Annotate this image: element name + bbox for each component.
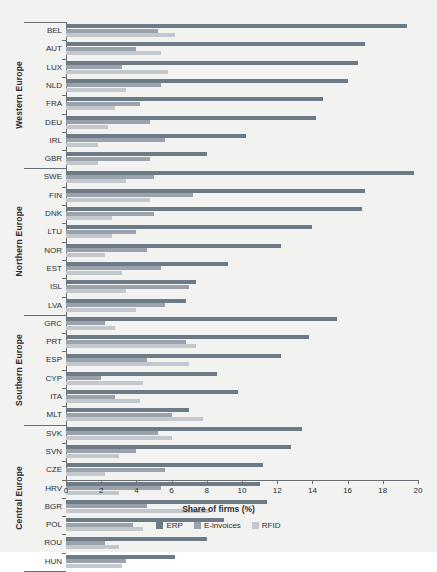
chart-row: HUN xyxy=(0,553,437,571)
category-label-swe: SWE xyxy=(26,168,62,186)
category-label-est: EST xyxy=(26,260,62,278)
chart-row: ESP xyxy=(0,351,437,369)
bar-prt-erp xyxy=(66,335,309,339)
bar-svn-rfid xyxy=(66,454,119,458)
x-axis-tick-label: 6 xyxy=(157,486,187,495)
bar-dnk-erp xyxy=(66,207,362,211)
bar-swe-rfid xyxy=(66,179,126,183)
bar-nld-rfid xyxy=(66,88,126,92)
legend-item-rfid[interactable]: RFID xyxy=(252,521,281,530)
bar-esp-e-invoices xyxy=(66,358,147,362)
bar-lux-erp xyxy=(66,61,358,65)
bar-gbr-e-invoices xyxy=(66,157,150,161)
chart-row: IRL xyxy=(0,132,437,150)
legend-swatch-icon xyxy=(156,522,163,529)
bar-est-erp xyxy=(66,262,228,266)
category-label-ltu: LTU xyxy=(26,223,62,241)
bar-group xyxy=(66,297,437,315)
category-label-dnk: DNK xyxy=(26,205,62,223)
bar-fin-erp xyxy=(66,189,365,193)
x-axis-tick xyxy=(348,480,349,484)
category-label-deu: DEU xyxy=(26,114,62,132)
bar-group xyxy=(66,132,437,150)
bar-lux-rfid xyxy=(66,70,168,74)
bar-svk-rfid xyxy=(66,436,172,440)
category-label-fin: FIN xyxy=(26,187,62,205)
bar-isl-rfid xyxy=(66,289,126,293)
bar-group xyxy=(66,242,437,260)
chart-row: ISL xyxy=(0,278,437,296)
bar-group xyxy=(66,260,437,278)
bar-group xyxy=(66,553,437,571)
bar-group xyxy=(66,187,437,205)
category-label-cze: CZE xyxy=(26,461,62,479)
bar-cze-erp xyxy=(66,463,263,467)
chart-row: EST xyxy=(0,260,437,278)
bar-group xyxy=(66,534,437,552)
bar-group xyxy=(66,315,437,333)
bar-irl-e-invoices xyxy=(66,138,165,142)
bar-nor-e-invoices xyxy=(66,248,147,252)
category-label-bel: BEL xyxy=(26,22,62,40)
bar-grc-rfid xyxy=(66,326,115,330)
bar-svn-e-invoices xyxy=(66,449,136,453)
x-axis-tick-label: 12 xyxy=(262,486,292,495)
bar-rou-e-invoices xyxy=(66,541,105,545)
chart-row: PRT xyxy=(0,333,437,351)
bar-fra-e-invoices xyxy=(66,102,140,106)
bar-group xyxy=(66,114,437,132)
bar-cze-e-invoices xyxy=(66,468,165,472)
x-axis-tick-label: 8 xyxy=(192,486,222,495)
x-axis-tick-label: 4 xyxy=(121,486,151,495)
chart-row: NOR xyxy=(0,242,437,260)
bar-aut-erp xyxy=(66,42,365,46)
category-label-hun: HUN xyxy=(26,553,62,571)
bar-nld-erp xyxy=(66,79,348,83)
bar-group xyxy=(66,59,437,77)
bar-cyp-erp xyxy=(66,372,217,376)
bar-group xyxy=(66,22,437,40)
bar-svk-erp xyxy=(66,427,302,431)
bar-ltu-rfid xyxy=(66,234,112,238)
bar-hun-erp xyxy=(66,555,175,559)
category-label-svk: SVK xyxy=(26,425,62,443)
bar-rou-erp xyxy=(66,537,207,541)
chart-row: MLT xyxy=(0,406,437,424)
chart-row: ROU xyxy=(0,534,437,552)
bar-deu-rfid xyxy=(66,125,108,129)
category-label-grc: GRC xyxy=(26,315,62,333)
category-label-lva: LVA xyxy=(26,297,62,315)
bar-fin-rfid xyxy=(66,198,150,202)
bar-gbr-erp xyxy=(66,152,207,156)
legend-item-erp[interactable]: ERP xyxy=(156,521,182,530)
chart-row: LVA xyxy=(0,297,437,315)
x-axis-tick-label: 2 xyxy=(86,486,116,495)
legend-item-e-invoices[interactable]: E-invoices xyxy=(194,521,241,530)
bar-group xyxy=(66,40,437,58)
x-axis-tick-label: 0 xyxy=(51,486,81,495)
category-label-ita: ITA xyxy=(26,388,62,406)
bar-aut-rfid xyxy=(66,51,161,55)
bar-esp-erp xyxy=(66,354,281,358)
bar-nor-rfid xyxy=(66,253,105,257)
bar-fra-rfid xyxy=(66,106,115,110)
bar-bel-erp xyxy=(66,24,407,28)
bar-lva-e-invoices xyxy=(66,303,165,307)
x-axis-tick-label: 14 xyxy=(297,486,327,495)
chart-row: SVK xyxy=(0,425,437,443)
bar-group xyxy=(66,351,437,369)
bar-group xyxy=(66,388,437,406)
bar-grc-e-invoices xyxy=(66,321,105,325)
x-axis-tick xyxy=(383,480,384,484)
bar-group xyxy=(66,205,437,223)
chart-row: CZE xyxy=(0,461,437,479)
bar-svn-erp xyxy=(66,445,291,449)
bar-gbr-rfid xyxy=(66,161,98,165)
category-label-prt: PRT xyxy=(26,333,62,351)
bar-nld-e-invoices xyxy=(66,83,161,87)
bar-dnk-rfid xyxy=(66,216,112,220)
bar-nor-erp xyxy=(66,244,281,248)
x-axis-tick xyxy=(277,480,278,484)
bar-fin-e-invoices xyxy=(66,193,193,197)
bar-ita-erp xyxy=(66,390,238,394)
